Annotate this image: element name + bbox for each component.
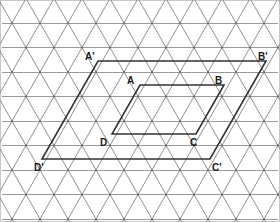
label-b: B [215, 76, 222, 86]
label-d-prime: D' [34, 163, 44, 173]
triangular-lattice-diagram [0, 0, 280, 222]
label-a-prime: A' [85, 52, 95, 62]
label-a: A [127, 76, 134, 86]
label-d: D [100, 138, 107, 148]
label-b-prime: B' [258, 52, 268, 62]
figure-container: A'B'ABDCD'C' [0, 0, 280, 222]
label-c-prime: C' [212, 163, 222, 173]
label-c: C [190, 138, 197, 148]
